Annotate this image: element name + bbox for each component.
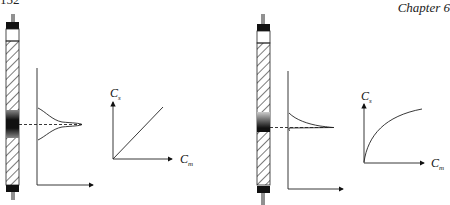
isotherm-plot-linear <box>113 102 172 159</box>
column-left <box>6 14 19 200</box>
column-right <box>257 14 270 205</box>
y-axis-label-left: Cs <box>110 86 121 102</box>
x-axis-label-left: Cm <box>180 152 193 168</box>
x-axis-label-right: Cm <box>431 156 444 172</box>
isotherm-plot-langmuir <box>364 104 424 163</box>
chromatogram-left <box>19 68 93 185</box>
chromatogram-right <box>270 71 343 189</box>
y-axis-label-right: Cs <box>361 89 372 105</box>
